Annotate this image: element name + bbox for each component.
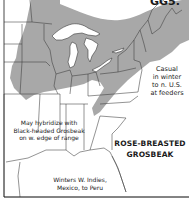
casual-line-2: in winter (146, 73, 188, 81)
winter-line-2: Mexico, to Peru (40, 184, 120, 192)
hybrid-line-2: Black-headed Grosbeak (6, 127, 92, 135)
corner-label: GG5. (150, 0, 189, 9)
casual-line-4: at feeders (146, 89, 188, 97)
species-title: ROSE-BREASTED GROSBEAK (112, 139, 188, 161)
casual-winter-annotation: Casual in winter to n. U.S. at feeders (146, 65, 188, 98)
casual-line-3: to n. U.S. (146, 81, 188, 89)
winter-range-annotation: Winters W. Indies, Mexico, to Peru (40, 176, 120, 191)
species-title-line-2: GROSBEAK (112, 150, 188, 161)
winter-line-1: Winters W. Indies, (40, 176, 120, 184)
hybrid-annotation: May hybridize with Black-headed Grosbeak… (6, 119, 92, 142)
casual-line-1: Casual (146, 65, 188, 73)
hybrid-line-3: on w. edge of range (6, 134, 92, 142)
species-title-line-1: ROSE-BREASTED (112, 139, 188, 150)
hybrid-line-1: May hybridize with (6, 119, 92, 127)
